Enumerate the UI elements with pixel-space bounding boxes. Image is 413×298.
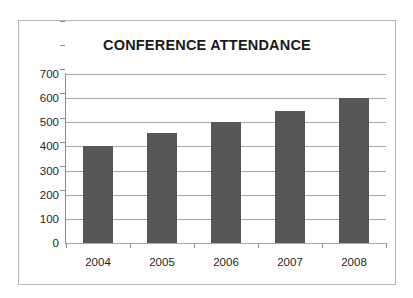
x-axis-tick-label: 2004 <box>85 256 111 268</box>
x-axis-tick-label: 2006 <box>213 256 239 268</box>
y-axis-tick-mark <box>60 45 65 46</box>
x-axis-origin-tick-mark <box>66 243 67 248</box>
y-axis-tick-mark <box>60 93 65 94</box>
y-axis-tick-label: 700 <box>40 68 59 80</box>
x-axis-tick-mark <box>130 243 131 248</box>
y-axis-tick-label: 400 <box>40 140 59 152</box>
y-axis-tick-mark <box>60 69 65 70</box>
y-axis-tick-mark <box>60 118 65 119</box>
x-axis-tick-mark <box>386 243 387 248</box>
x-axis-tick-mark <box>322 243 323 248</box>
y-axis-tick-label: 600 <box>40 92 59 104</box>
bar <box>147 133 177 243</box>
bar <box>275 111 305 243</box>
x-axis-tick-label: 2008 <box>341 256 367 268</box>
y-axis-tick-label: 100 <box>40 213 59 225</box>
gridline <box>66 98 386 99</box>
x-axis-tick-mark <box>194 243 195 248</box>
y-axis-tick-label: 200 <box>40 189 59 201</box>
gridline <box>66 74 386 75</box>
bar <box>339 98 369 243</box>
gridline <box>66 243 386 244</box>
bar <box>211 122 241 243</box>
plot-area: 0100200300400500600700200420052006200720… <box>66 74 386 243</box>
y-axis-tick-label: 500 <box>40 116 59 128</box>
y-axis-tick-label: 300 <box>40 165 59 177</box>
y-axis-tick-mark <box>60 190 65 191</box>
y-axis-tick-label: 0 <box>53 237 59 249</box>
chart-title: CONFERENCE ATTENDANCE <box>19 37 395 53</box>
y-axis-tick-mark <box>60 142 65 143</box>
bar <box>83 146 113 243</box>
chart-container: CONFERENCE ATTENDANCE 010020030040050060… <box>18 20 396 285</box>
x-axis-tick-mark <box>258 243 259 248</box>
y-axis-tick-mark <box>60 21 65 22</box>
x-axis-tick-label: 2007 <box>277 256 303 268</box>
y-axis-tick-mark <box>60 166 65 167</box>
x-axis-tick-label: 2005 <box>149 256 175 268</box>
